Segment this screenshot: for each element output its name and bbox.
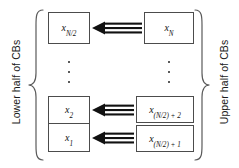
ellipsis-dot [168,81,170,83]
ellipsis-dot [68,71,70,73]
box-x-n-over-2-plus-2: x(N/2) + 2 [136,96,194,123]
box-label-x-1: x1 [65,133,73,143]
ellipsis-dot [68,61,70,63]
upper-half-label: Upper half of CBs [218,32,230,132]
left-column-vertical-ellipsis [64,59,74,85]
box-label-x-n: xN [164,23,173,33]
arrow-x-n-over-2-plus-2-to-x-2-icon [92,103,134,117]
box-label-x-2: x2 [65,105,73,115]
box-label-x-n-over-2-plus-1: x(N/2) + 1 [149,134,181,144]
right-column-vertical-ellipsis [164,59,174,85]
ellipsis-dot [68,81,70,83]
left-group-brace [27,9,45,161]
box-x-1: x1 [48,123,90,152]
box-x-n-over-2: xN/2 [48,12,90,44]
lower-half-label: Lower half of CBs [10,32,22,132]
box-label-x-n-over-2: xN/2 [62,23,77,33]
arrow-x-n-over-2-plus-1-to-x-1-icon [92,131,134,145]
block-diagram: Lower half of CBs Upper half of CBs xN/2… [0,0,239,168]
box-x-2: x2 [48,96,90,124]
box-x-n: xN [144,12,194,44]
ellipsis-dot [168,71,170,73]
arrow-x-n-to-x-n-over-2-icon [92,21,142,35]
box-x-n-over-2-plus-1: x(N/2) + 1 [136,125,194,152]
box-label-x-n-over-2-plus-2: x(N/2) + 2 [149,105,181,115]
right-group-brace [193,9,211,161]
ellipsis-dot [168,61,170,63]
